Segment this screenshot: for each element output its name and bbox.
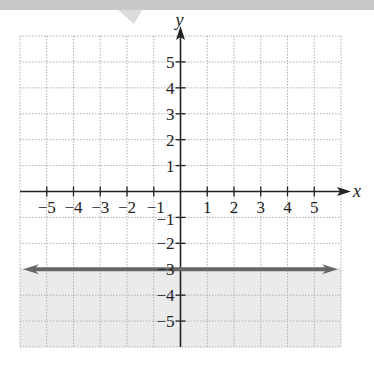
y-tick-label: −5 [156,312,174,331]
x-tick-label: −3 [91,198,109,217]
x-tick-label: 1 [203,198,212,217]
y-tick-label: −2 [156,234,174,253]
y-tick-label: 2 [166,131,175,150]
y-tick-label: −4 [156,286,175,305]
x-tick-label: 4 [283,198,292,217]
y-tick-label: 1 [166,157,175,176]
y-tick-label: −1 [156,210,174,229]
x-tick-label: −2 [118,198,136,217]
y-tick-label: 4 [166,79,175,98]
x-tick-label: −5 [38,198,56,217]
x-tick-label: −4 [64,198,83,217]
x-axis-label: x [352,181,361,201]
banner-tab [118,10,142,24]
y-axis-label: y [174,10,184,30]
y-tick-label: −3 [156,260,174,279]
y-tick-label: 5 [166,53,175,72]
y-tick-label: 3 [166,105,175,124]
x-tick-label: 3 [257,198,266,217]
coordinate-plane: −5−4−3−2−112345−5−4−3−2−112345 x y [0,0,374,374]
x-tick-label: 2 [230,198,239,217]
x-tick-label: 5 [310,198,319,217]
